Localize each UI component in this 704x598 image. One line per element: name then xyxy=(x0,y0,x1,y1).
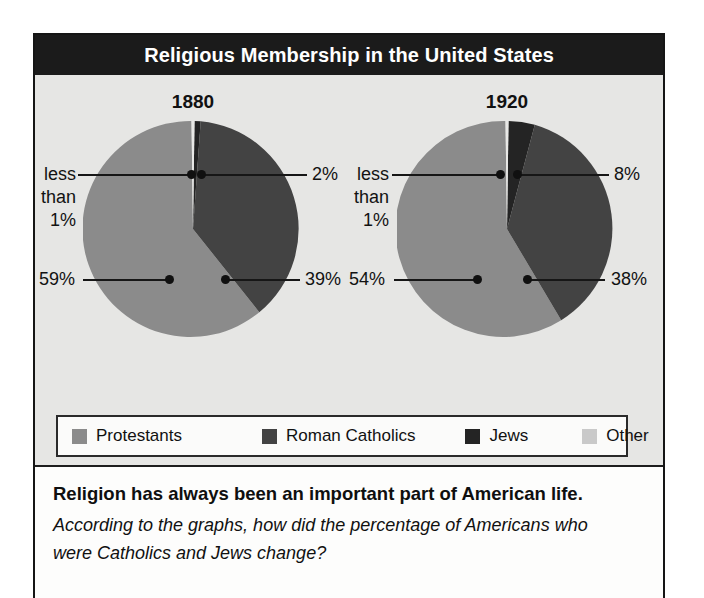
leader-dot-protestants xyxy=(165,275,174,284)
caption-headline: Religion has always been an important pa… xyxy=(53,481,645,507)
chart-year-label: 1880 xyxy=(35,91,351,113)
legend-swatch-icon xyxy=(262,429,277,444)
leader-dot-catholics xyxy=(523,275,532,284)
leader-line-jews xyxy=(201,174,307,176)
label-other: less than 1% xyxy=(40,163,76,232)
legend-label: Other xyxy=(606,426,649,446)
leader-dot-catholics xyxy=(221,275,230,284)
leader-dot-other xyxy=(187,170,196,179)
legend-label: Protestants xyxy=(96,426,182,446)
page-title: Religious Membership in the United State… xyxy=(144,44,554,67)
leader-dot-jews xyxy=(513,170,522,179)
label-other-line1: less xyxy=(351,163,389,186)
legend-item-jews: Jews xyxy=(465,426,528,446)
figure-title-bar: Religious Membership in the United State… xyxy=(35,35,663,75)
label-protestants: 59% xyxy=(39,269,75,289)
leader-line-other xyxy=(78,174,191,176)
chart-legend: Protestants Roman Catholics Jews Other xyxy=(56,415,628,457)
legend-item-roman-catholics: Roman Catholics xyxy=(262,426,415,446)
leader-line-jews xyxy=(517,174,609,176)
label-jews: 2% xyxy=(312,164,338,184)
label-catholics: 38% xyxy=(611,269,647,289)
legend-item-protestants: Protestants xyxy=(72,426,182,446)
chart-year-label: 1920 xyxy=(349,91,665,113)
leader-dot-other xyxy=(496,170,505,179)
label-other-line3: 1% xyxy=(40,209,76,232)
legend-label: Jews xyxy=(489,426,528,446)
leader-line-catholics xyxy=(527,279,605,281)
leader-line-protestants xyxy=(83,279,168,281)
label-catholics: 39% xyxy=(305,269,341,289)
legend-swatch-icon xyxy=(582,429,597,444)
label-other-line3: 1% xyxy=(351,209,389,232)
chart-panel: 1880 less than 1% xyxy=(35,75,663,465)
label-protestants: 54% xyxy=(349,269,385,289)
caption-question: According to the graphs, how did the per… xyxy=(53,511,613,567)
pie-graphic-1920 xyxy=(397,119,617,339)
label-other-line1: less xyxy=(40,163,76,186)
leader-line-other xyxy=(392,174,500,176)
figure-card: Religious Membership in the United State… xyxy=(33,33,665,598)
label-other: less than 1% xyxy=(351,163,389,232)
pie-graphic-1880 xyxy=(83,119,303,339)
leader-line-protestants xyxy=(394,279,476,281)
label-other-line2: than xyxy=(40,186,76,209)
pie-chart-1880: 1880 less than 1% xyxy=(35,75,351,405)
leader-dot-jews xyxy=(197,170,206,179)
caption-panel: Religion has always been an important pa… xyxy=(35,465,663,598)
legend-swatch-icon xyxy=(465,429,480,444)
label-other-line2: than xyxy=(351,186,389,209)
label-jews: 8% xyxy=(614,164,640,184)
leader-line-catholics xyxy=(225,279,300,281)
legend-item-other: Other xyxy=(582,426,649,446)
leader-dot-protestants xyxy=(473,275,482,284)
legend-swatch-icon xyxy=(72,429,87,444)
legend-label: Roman Catholics xyxy=(286,426,415,446)
pie-chart-1920: 1920 less than 1% xyxy=(349,75,665,405)
